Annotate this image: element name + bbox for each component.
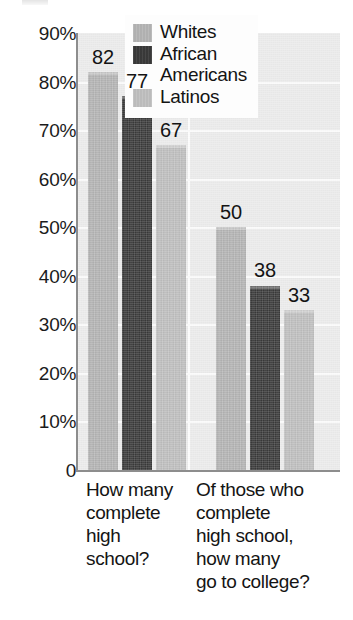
x-axis-line (76, 470, 340, 472)
y-axis-tick-40: 40% (4, 266, 76, 285)
bar-value-label-1-2: 33 (288, 285, 310, 305)
y-axis-tick-70: 70% (4, 121, 76, 140)
legend-swatch-whites (133, 24, 152, 42)
y-axis-tick-60: 60% (4, 169, 76, 188)
legend-item-latinos: Latinos (133, 86, 254, 107)
y-axis-tick-50: 50% (4, 218, 76, 237)
legend-item-whites: Whites (133, 21, 254, 42)
x-axis-label-group-1: Of those who complete high school, how m… (196, 478, 346, 593)
bar-value-label-0-0: 82 (92, 47, 114, 67)
y-axis-tick-labels: 90%80%70%60%50%40%30%20%10%0 (0, 0, 76, 620)
y-axis-tick-80: 80% (4, 72, 76, 91)
y-axis-tick-0: 0 (4, 461, 76, 480)
bar-value-label-1-0: 50 (220, 202, 242, 222)
bar-value-label-0-2: 67 (160, 120, 182, 140)
legend-item-african-americans: African Americans (133, 43, 254, 85)
y-axis-tick-90: 90% (4, 24, 76, 43)
legend-label-latinos: Latinos (160, 86, 219, 107)
bar-group-0-latinos (156, 145, 186, 470)
bar-group-1-african-americans (250, 286, 280, 471)
bar-value-label-0-1: 77 (126, 71, 148, 91)
x-axis-label-group-0: How many complete high school? (86, 478, 206, 570)
x-axis-category-labels: How many complete high school? Of those … (78, 478, 353, 618)
y-axis-line (76, 33, 78, 471)
bar-value-label-1-1: 38 (254, 260, 276, 280)
bar-chart-figure: 90%80%70%60%50%40%30%20%10%0 WhitesAfric… (0, 0, 353, 620)
y-axis-tick-10: 10% (4, 412, 76, 431)
bar-group-0-african-americans (122, 96, 152, 470)
legend-label-african-americans: African Americans (160, 43, 247, 85)
bar-group-1-latinos (284, 310, 314, 470)
bar-group-1-whites (216, 227, 246, 470)
legend: WhitesAfrican AmericansLatinos (125, 15, 258, 118)
bar-group-0-whites (88, 72, 118, 470)
y-axis-tick-20: 20% (4, 363, 76, 382)
y-axis-tick-30: 30% (4, 315, 76, 334)
legend-swatch-african-americans (133, 46, 152, 64)
legend-label-whites: Whites (160, 21, 216, 42)
